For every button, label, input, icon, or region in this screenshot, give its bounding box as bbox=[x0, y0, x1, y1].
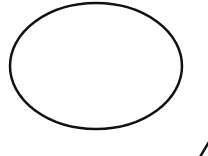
drawing-canvas bbox=[0, 0, 208, 156]
diagonal-line-shape bbox=[200, 142, 208, 156]
ellipse-shape bbox=[10, 3, 182, 129]
